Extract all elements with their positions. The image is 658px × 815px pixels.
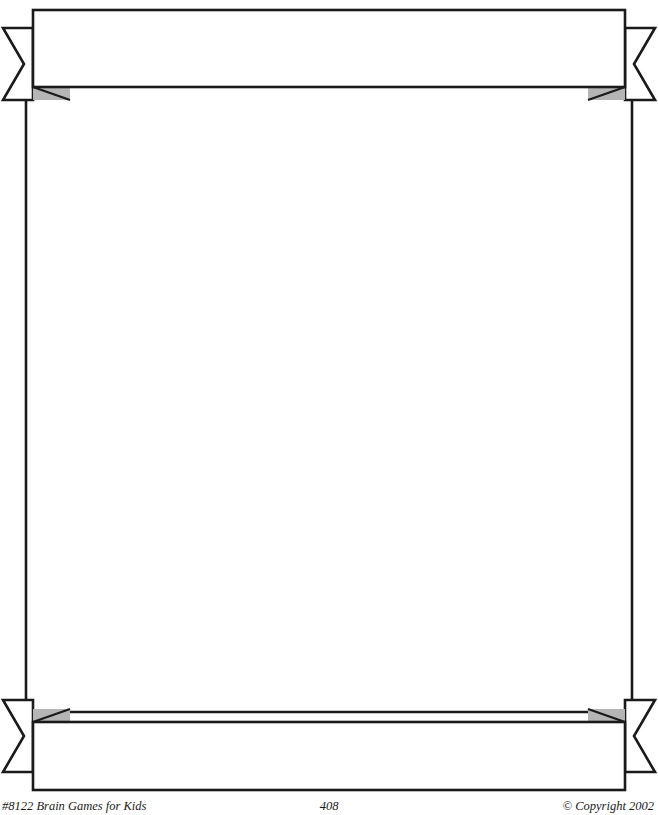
bottom-banner-body: [33, 722, 625, 790]
top-banner-body: [33, 10, 625, 87]
bottom-banner-left-tail: [3, 700, 33, 772]
bottom-banner-right-tail: [625, 700, 655, 772]
page-footer: #8122 Brain Games for Kids 408 © Copyrig…: [0, 799, 658, 815]
top-banner-right-tail: [625, 28, 655, 100]
document-page: #8122 Brain Games for Kids 408 © Copyrig…: [0, 0, 658, 815]
decorative-page-border: [0, 0, 658, 815]
footer-page-number: 408: [0, 799, 658, 814]
top-banner-left-tail: [3, 28, 33, 100]
footer-copyright: © Copyright 2002: [563, 799, 654, 814]
